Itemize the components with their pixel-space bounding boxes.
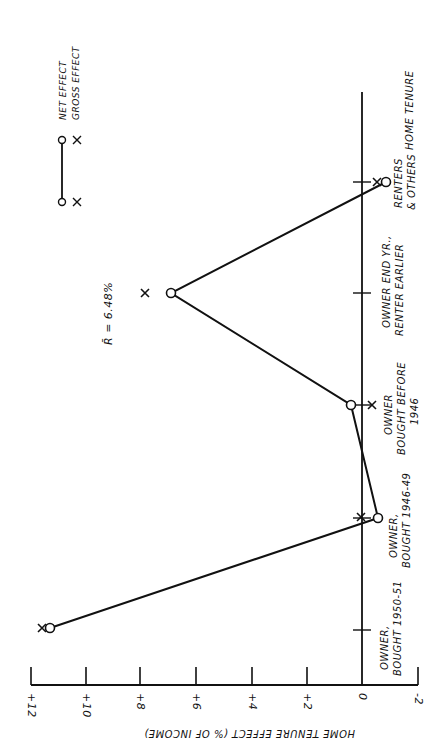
net-effect-markers <box>46 178 391 633</box>
net-effect-line <box>50 182 386 628</box>
category-label: RENTER EARLIER <box>394 244 405 336</box>
category-label: & OTHERS <box>406 154 417 210</box>
legend-net-label: NET EFFECT <box>58 60 68 120</box>
category-label: BOUGHT 1946-49 <box>401 473 412 568</box>
value-axis-labels: +12 +10 +8 +6 +4 +2 0 -2 <box>25 693 425 718</box>
legend: NET EFFECT GROSS EFFECT <box>58 45 81 206</box>
tick-label: -2 <box>412 693 425 705</box>
mean-annotation: R̄ = 6.48% <box>102 282 115 345</box>
category-label: OWNER, <box>388 513 399 558</box>
tick-label: +12 <box>25 693 38 718</box>
home-tenure-chart: +12 +10 +8 +6 +4 +2 0 -2 HOME TENURE EFF… <box>0 0 437 751</box>
y-axis-title: HOME TENURE EFFECT (% OF INCOME) <box>144 728 355 739</box>
category-label: BOUGHT BEFORE <box>396 362 407 455</box>
category-label: OWNER END YR., <box>381 235 392 328</box>
category-label: RENTERS <box>393 158 404 208</box>
legend-gross-marker-icon <box>73 136 81 144</box>
tick-label: +6 <box>190 693 203 710</box>
category-label: OWNER <box>383 394 394 435</box>
legend-net-marker-icon <box>59 137 66 144</box>
category-label: OWNER, <box>379 625 390 670</box>
tick-label: 0 <box>356 693 369 701</box>
tick-label: +2 <box>301 693 314 710</box>
tick-label: +10 <box>80 693 93 718</box>
value-axis-ticks <box>31 667 418 685</box>
category-labels: OWNER, BOUGHT 1950-51 OWNER, BOUGHT 1946… <box>379 154 420 676</box>
tick-label: +8 <box>134 693 147 710</box>
category-label: BOUGHT 1950-51 <box>392 581 403 676</box>
category-label: 1946 <box>409 398 420 425</box>
legend-gross-label: GROSS EFFECT <box>71 45 81 120</box>
tick-label: +4 <box>246 693 259 710</box>
x-axis-title: HOME TENURE <box>404 70 415 150</box>
gross-effect-markers <box>38 178 381 632</box>
